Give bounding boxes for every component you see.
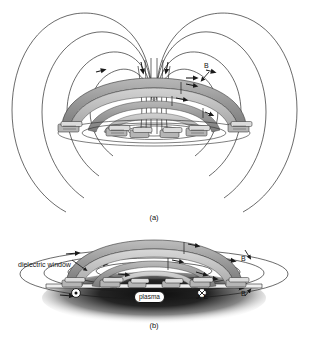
panel-b-field-label-top: B	[241, 255, 246, 262]
field-lines-outer	[12, 13, 297, 212]
panel-a-caption: (a)	[134, 214, 174, 222]
figure-root: B (a)	[0, 0, 309, 337]
plasma-label: plasma	[134, 291, 165, 303]
panel-b-caption: (b)	[134, 322, 174, 330]
panel-b-field-label-bottom: B	[241, 290, 246, 297]
panel-a-diagram	[0, 0, 309, 215]
coil-assembly-a	[58, 78, 252, 146]
current-out-of-page-icon	[72, 289, 81, 298]
panel-b-diagram	[0, 226, 309, 336]
panel-a-field-label: B	[204, 62, 209, 69]
current-density-field-label: J, E	[196, 293, 208, 300]
dielectric-window-label: dielectric window	[18, 261, 71, 268]
